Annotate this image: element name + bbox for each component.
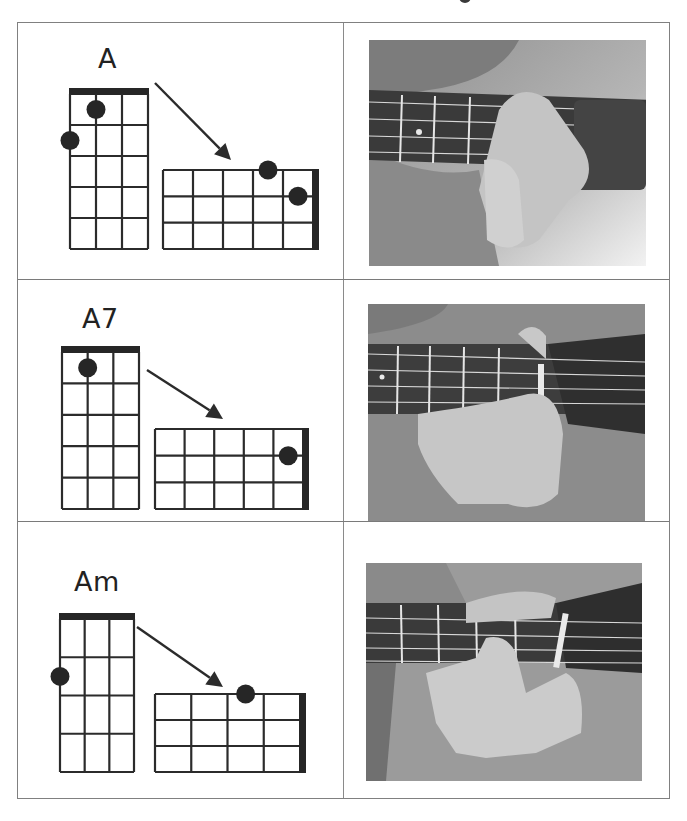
chord-photo-a — [369, 40, 646, 266]
arrow-shaft — [137, 627, 210, 678]
chord-photo-a7 — [368, 304, 645, 521]
finger-dot — [236, 685, 255, 704]
vertical-fretboard — [51, 613, 136, 772]
arrow-head — [205, 671, 223, 687]
photo-image — [369, 40, 646, 266]
horizontal-fretboard — [155, 685, 306, 774]
nut-bar — [59, 613, 135, 620]
rotate-arrow-icon — [137, 627, 223, 687]
finger-dot — [51, 667, 70, 686]
chord-photo-am — [366, 563, 642, 781]
page-edge-mark — [459, 0, 471, 3]
chord-table: A — [17, 22, 670, 799]
column-divider — [343, 23, 344, 798]
photo-image — [366, 563, 642, 781]
photo-image — [368, 304, 645, 521]
chord-diagram-am — [18, 23, 343, 800]
nut-bar — [299, 693, 306, 773]
